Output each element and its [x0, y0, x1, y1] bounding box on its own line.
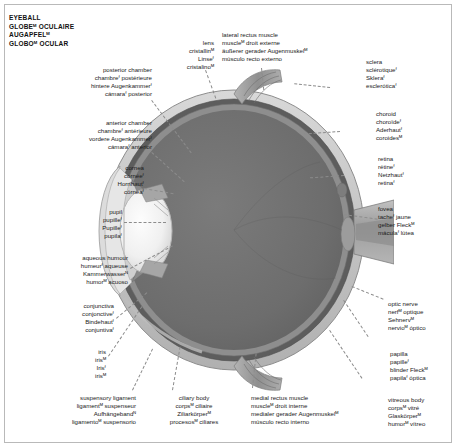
lens-es: cristalinoᴹ	[166, 63, 214, 71]
posterior-chamber-fr: chambreᶠ postérieure	[36, 74, 152, 82]
iris-en: iris	[62, 348, 106, 356]
papilla-en: papilla	[390, 350, 456, 358]
lens-en: lens	[166, 39, 214, 47]
papilla-fr: papilleᶠ	[390, 358, 456, 366]
label-suspensory-ligament: suspensory ligament ligamentᴹ suspenseur…	[26, 394, 136, 426]
lateral-rectus-en: lateral rectus muscle	[222, 31, 362, 39]
aqueous-humour-es: humorᴹ acuoso	[32, 278, 128, 286]
choroid-en: choroid	[376, 110, 456, 118]
lateral-rectus-de: äußerer gerader Augenmuskelᴹ	[222, 47, 362, 55]
lens-de: Linseᶠ	[166, 55, 214, 63]
eyeball-cross-section-illustration	[84, 58, 394, 403]
suspensory-ligament-es: ligamentoᴹ suspensorio	[26, 418, 136, 426]
optic-nerve-de: Sehnervᴹ	[388, 316, 456, 324]
title-line-en: EYEBALL	[9, 14, 74, 23]
ciliary-body-de: Ziliarkörperᴹ	[152, 410, 236, 418]
anterior-chamber-es: cámaraᶠ anterior	[32, 143, 152, 151]
lens-fr: cristallinᴹ	[166, 47, 214, 55]
label-lateral-rectus-muscle: lateral rectus muscle muscleᴹ droit exte…	[222, 31, 362, 63]
retina-de: Netzhautᶠ	[378, 171, 448, 179]
cornea-en: cornea	[74, 164, 144, 172]
vitreous-body-en: vitreous body	[388, 396, 456, 404]
medial-rectus-fr: muscleᴹ droit interne	[251, 402, 381, 410]
ciliary-body-en: ciliary body	[152, 394, 236, 402]
label-papilla: papilla papilleᶠ blinder Fleckᴹ papilaᶠ …	[390, 350, 456, 382]
anterior-chamber-de: vordere Augenkammerᶠ	[32, 135, 152, 143]
title-line-fr: GLOBEᴹ OCULAIRE	[9, 23, 74, 32]
papilla-es: papilaᶠ óptica	[390, 374, 456, 382]
label-posterior-chamber: posterior chamber chambreᶠ postérieure h…	[36, 66, 152, 98]
label-iris: iris irisᴹ Irisᶠ irisᴹ	[62, 348, 106, 380]
label-retina: retina rétineᶠ Netzhautᶠ retinaᶠ	[378, 155, 448, 187]
choroid-es: coroidesᴹ	[376, 134, 456, 142]
cornea-de: Hornhautᶠ	[74, 180, 144, 188]
title-line-de: AUGAPFELᴹ	[9, 31, 74, 40]
lateral-rectus-es: músculo recto externo	[222, 55, 362, 63]
pupil-de: Pupilleᶠ	[60, 224, 122, 232]
conjunctiva-es: conjuntivaᶠ	[44, 326, 114, 334]
suspensory-ligament-en: suspensory ligament	[26, 394, 136, 402]
label-lens: lens cristallinᴹ Linseᶠ cristalinoᴹ	[166, 39, 214, 71]
aqueous-humour-de: Kammerwasserᴺ	[32, 270, 128, 278]
retina-fr: rétineᶠ	[378, 163, 448, 171]
anterior-chamber-fr: chambreᶠ antérieure	[32, 127, 152, 135]
aqueous-humour-fr: humeurᶠ aqueuse	[32, 262, 128, 270]
fovea-fr: tacheᶠ jaune	[378, 213, 454, 221]
fovea-en: fovea	[378, 205, 454, 213]
pupil-en: pupil	[60, 208, 122, 216]
medial-rectus-es: músculo recto interno	[251, 418, 381, 426]
label-anterior-chamber: anterior chamber chambreᶠ antérieure vor…	[32, 119, 152, 151]
fovea-de: gelber Fleckᴹ	[378, 221, 454, 229]
label-medial-rectus-muscle: medial rectus muscle muscleᴹ droit inter…	[251, 394, 381, 426]
posterior-chamber-de: hintere Augenkammerᶠ	[36, 82, 152, 90]
suspensory-ligament-de: Aufhängebandᴺ	[26, 410, 136, 418]
sclera-es: escleróticaᶠ	[366, 82, 450, 90]
iris-es: irisᴹ	[62, 372, 106, 380]
label-sclera: sclera sclérotiqueᶠ Skleraᶠ escleróticaᶠ	[366, 58, 450, 90]
label-ciliary-body: ciliary body corpsᴹ ciliaire Ziliarkörpe…	[152, 394, 236, 426]
label-pupil: pupil pupilleᶠ Pupilleᶠ pupilaᶠ	[60, 208, 122, 240]
label-aqueous-humour: aqueous humour humeurᶠ aqueuse Kammerwas…	[32, 254, 128, 286]
choroid-de: Aderhautᶠ	[376, 126, 456, 134]
vitreous-body-fr: corpsᴹ vitré	[388, 404, 456, 412]
papilla-de: blinder Fleckᴹ	[390, 366, 456, 374]
title-line-es: GLOBOᴹ OCULAR	[9, 40, 74, 49]
suspensory-ligament-fr: ligamentᴹ suspenseur	[26, 402, 136, 410]
medial-rectus-en: medial rectus muscle	[251, 394, 381, 402]
choroid-fr: choroïdeᶠ	[376, 118, 456, 126]
page-title: EYEBALL GLOBEᴹ OCULAIRE AUGAPFELᴹ GLOBOᴹ…	[9, 14, 74, 48]
sclera-en: sclera	[366, 58, 450, 66]
ciliary-body-es: procesosᴹ ciliares	[152, 418, 236, 426]
iris-de: Irisᶠ	[62, 364, 106, 372]
optic-nerve-fr: nerfᴹ optique	[388, 308, 456, 316]
sclera-fr: sclérotiqueᶠ	[366, 66, 450, 74]
papilla-optic-disc	[341, 217, 355, 251]
fovea	[337, 183, 347, 197]
optic-nerve-en: optic nerve	[388, 300, 456, 308]
label-optic-nerve: optic nerve nerfᴹ optique Sehnervᴹ nervi…	[388, 300, 456, 332]
label-choroid: choroid choroïdeᶠ Aderhautᶠ coroidesᴹ	[376, 110, 456, 142]
sclera-de: Skleraᶠ	[366, 74, 450, 82]
iris-fr: irisᴹ	[62, 356, 106, 364]
anterior-chamber-en: anterior chamber	[32, 119, 152, 127]
medial-rectus-de: medialer gerader Augenmuskelᴹ	[251, 410, 381, 418]
retina-es: retinaᶠ	[378, 179, 448, 187]
fovea-es: máculaᶠ lútea	[378, 229, 454, 237]
label-conjunctiva: conjunctiva conjonctiveᶠ Bindehautᶠ conj…	[44, 302, 114, 334]
optic-nerve-es: nervioᴹ óptico	[388, 324, 456, 332]
eyeball-diagram-page: EYEBALL GLOBEᴹ OCULAIRE AUGAPFELᴹ GLOBOᴹ…	[0, 0, 456, 447]
lateral-rectus-fr: muscleᴹ droit externe	[222, 39, 362, 47]
label-vitreous-body: vitreous body corpsᴹ vitré Glaskörperᴹ h…	[388, 396, 456, 428]
ciliary-body-fr: corpsᴹ ciliaire	[152, 402, 236, 410]
posterior-chamber-en: posterior chamber	[36, 66, 152, 74]
pupil-fr: pupilleᶠ	[60, 216, 122, 224]
cornea-es: córneaᶠ	[74, 188, 144, 196]
aqueous-humour-en: aqueous humour	[32, 254, 128, 262]
vitreous-body-es: humorᴹ vítreo	[388, 420, 456, 428]
conjunctiva-de: Bindehautᶠ	[44, 318, 114, 326]
conjunctiva-en: conjunctiva	[44, 302, 114, 310]
label-fovea: fovea tacheᶠ jaune gelber Fleckᴹ máculaᶠ…	[378, 205, 454, 237]
retina-en: retina	[378, 155, 448, 163]
vitreous-body-de: Glaskörperᴹ	[388, 412, 456, 420]
posterior-chamber-es: cámaraᶠ posterior	[36, 90, 152, 98]
